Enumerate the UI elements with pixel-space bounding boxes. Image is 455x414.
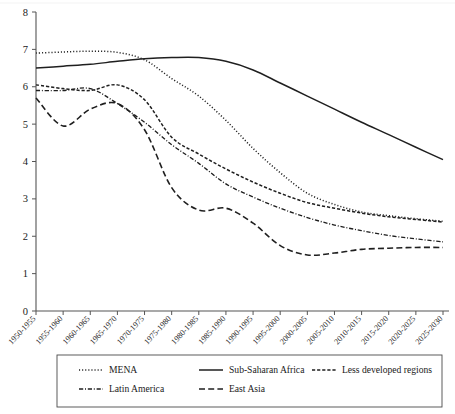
legend-label: MENA bbox=[109, 364, 137, 375]
chart-canvas: 012345678 1950-19551955-19601960-1965196… bbox=[0, 0, 455, 414]
y-axis-tick-label: 5 bbox=[23, 119, 28, 130]
y-axis-tick-label: 8 bbox=[23, 7, 28, 18]
legend-label: Sub-Saharan Africa bbox=[229, 364, 305, 375]
y-axis-tick-label: 7 bbox=[23, 44, 28, 55]
y-axis-tick-label: 2 bbox=[23, 231, 28, 242]
chart-legend: MENASub-Saharan AfricaLess developed reg… bbox=[57, 355, 442, 407]
legend-border bbox=[57, 355, 442, 407]
y-axis-tick-label: 6 bbox=[23, 81, 28, 92]
legend-label: Latin America bbox=[109, 383, 165, 394]
y-axis-tick-label: 1 bbox=[23, 268, 28, 279]
y-axis-tick-label: 0 bbox=[23, 306, 28, 317]
scan-artifact bbox=[0, 2, 455, 4]
y-axis-tick-label: 3 bbox=[23, 193, 28, 204]
y-axis-tick-label: 4 bbox=[23, 156, 29, 167]
legend-label: Less developed regions bbox=[342, 364, 432, 375]
fertility-rate-line-chart: 012345678 1950-19551955-19601960-1965196… bbox=[0, 0, 455, 414]
legend-label: East Asia bbox=[229, 383, 266, 394]
